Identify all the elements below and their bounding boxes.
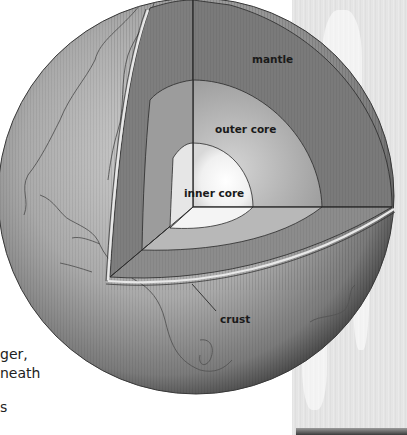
label-outer-core: outer core [215,123,276,135]
label-mantle: mantle [252,53,293,65]
side-text-line-2: neath [0,364,40,383]
label-crust: crust [220,313,250,325]
label-inner-core: inner core [184,187,244,199]
earth-cutaway-diagram [0,0,407,435]
side-text-line-3: s [0,398,7,417]
side-text-line-1: ger, [0,345,28,364]
